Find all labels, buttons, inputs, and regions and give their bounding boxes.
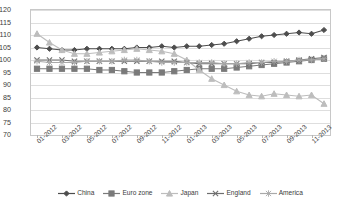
legend-marker-diamond-icon [58, 189, 75, 198]
legend-marker-cross-icon [207, 189, 224, 198]
data-point [34, 58, 41, 65]
data-point [84, 66, 89, 71]
data-point [271, 32, 276, 37]
data-series-layer [0, 0, 345, 209]
data-point [284, 31, 289, 36]
data-point [96, 58, 103, 65]
data-point [121, 57, 128, 64]
legend-label: America [279, 190, 303, 197]
data-point [283, 58, 290, 65]
data-point [122, 69, 127, 74]
data-point [321, 56, 328, 63]
data-point [221, 82, 227, 88]
data-point [184, 67, 189, 72]
legend-marker-triangle-icon [161, 189, 178, 198]
data-point [321, 27, 326, 32]
series-euro-zone [34, 56, 326, 75]
legend-marker-square-icon [103, 189, 120, 198]
data-point [171, 59, 178, 66]
chart-container: 707580859095100105110115120 01-201203-20… [0, 0, 345, 209]
data-point [109, 58, 116, 65]
data-point [271, 58, 278, 65]
series-china [34, 27, 326, 52]
data-point [184, 44, 189, 49]
legend-label: England [226, 190, 250, 197]
legend-marker-asterisk-icon [260, 189, 277, 198]
data-point [234, 39, 239, 44]
data-point [147, 70, 152, 75]
legend-label: Euro zone [122, 190, 152, 197]
data-point [97, 67, 102, 72]
data-point [134, 57, 141, 64]
data-point [47, 46, 52, 51]
data-point [59, 59, 66, 66]
data-point [234, 88, 240, 94]
chart-legend: ChinaEuro zoneJapanEnglandAmerica [30, 186, 331, 200]
data-point [233, 61, 240, 68]
data-point [46, 59, 53, 66]
data-point [34, 45, 39, 50]
data-point [296, 30, 301, 35]
data-point [71, 59, 78, 66]
data-point [159, 70, 164, 75]
data-point [72, 66, 77, 71]
data-point [296, 57, 303, 64]
data-point [34, 66, 39, 71]
data-point [59, 66, 64, 71]
data-point [309, 31, 314, 36]
series-line [37, 30, 324, 50]
data-point [209, 66, 214, 71]
legend-label: Japan [180, 190, 198, 197]
data-point [34, 31, 40, 37]
data-point [172, 69, 177, 74]
legend-item-euro-zone[interactable]: Euro zone [103, 189, 152, 198]
data-point [84, 58, 91, 65]
data-point [259, 34, 264, 39]
data-point [258, 59, 265, 66]
legend-item-japan[interactable]: Japan [161, 189, 198, 198]
data-point [221, 61, 228, 68]
data-point [159, 59, 166, 66]
data-point [196, 59, 203, 66]
legend-item-china[interactable]: China [58, 189, 94, 198]
data-point [222, 41, 227, 46]
data-point [308, 57, 315, 64]
data-point [47, 66, 52, 71]
legend-label: China [77, 190, 94, 197]
data-point [172, 45, 177, 50]
data-point [146, 58, 153, 65]
data-point [197, 44, 202, 49]
legend-item-america[interactable]: America [260, 189, 303, 198]
data-point [208, 59, 215, 66]
legend-item-england[interactable]: England [207, 189, 250, 198]
data-point [246, 59, 253, 66]
data-point [247, 36, 252, 41]
data-point [109, 67, 114, 72]
data-point [134, 70, 139, 75]
data-point [183, 59, 190, 66]
data-point [209, 42, 214, 47]
